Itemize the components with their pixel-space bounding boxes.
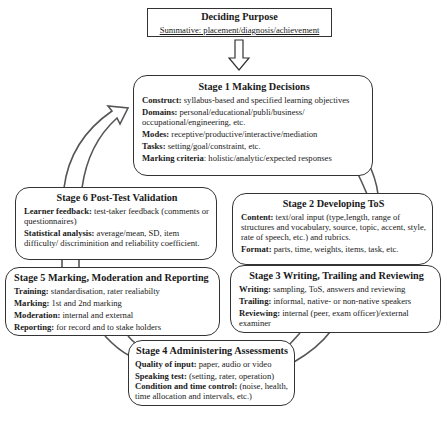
- stage-1-marking-criteria: Marking criteria: holistic/analytic/expe…: [142, 153, 366, 163]
- stage-4-title: Stage 4 Administering Assessments: [135, 345, 289, 357]
- stage-2-content: Content: text/oral input (type,length, r…: [241, 212, 426, 242]
- stage-5-training: Training: standardisation, rater realiab…: [14, 286, 213, 296]
- curved-arrow-icon: [64, 106, 128, 188]
- stage-3-writing: Writing: sampling, ToS, answers and revi…: [239, 284, 434, 294]
- stage-4-speaking-test: Speaking test: (setting, rater, operatio…: [135, 371, 289, 381]
- stage-5-box: Stage 5 Marking, Moderation and Reportin…: [5, 267, 220, 336]
- stage-3-trailing: Trailing: informal, native- or non-nativ…: [239, 296, 434, 306]
- purpose-title: Deciding Purpose: [148, 11, 331, 23]
- stage-4-quality-of-input: Quality of input: paper, audio or video: [135, 359, 289, 369]
- stage-5-marking: Marking: 1st and 2nd marking: [14, 298, 213, 308]
- stage-5-reporting: Reporting: for record and to stake holde…: [14, 322, 213, 332]
- purpose-subtitle: Summative: placement/diagnosis/achieveme…: [148, 25, 331, 36]
- stage-2-title: Stage 2 Developing ToS: [241, 198, 426, 210]
- stage-1-title: Stage 1 Making Decisions: [142, 81, 366, 93]
- stage-1-construct: Construct: syllabus-based and specified …: [142, 95, 366, 105]
- stage-5-title: Stage 5 Marking, Moderation and Reportin…: [14, 272, 213, 284]
- stage-2-box: Stage 2 Developing ToS Content: text/ora…: [232, 193, 433, 265]
- stage-4-box: Stage 4 Administering Assessments Qualit…: [128, 340, 295, 406]
- stage-6-statistical-analysis: Statistical analysis: average/mean, SD, …: [24, 228, 210, 248]
- deciding-purpose-box: Deciding Purpose Summative: placement/di…: [147, 8, 332, 37]
- stage-1-tasks: Tasks: setting/goal/constraint, etc.: [142, 141, 366, 151]
- stage-6-box: Stage 6 Post-Test Validation Learner fee…: [15, 187, 217, 260]
- stage-3-title: Stage 3 Writing, Trailing and Reviewing: [239, 270, 434, 282]
- stage-1-box: Stage 1 Making Decisions Construct: syll…: [133, 75, 373, 176]
- stage-2-format: Format: parts, time, weights, items, tas…: [241, 244, 426, 254]
- stage-3-reviewing: Reviewing: internal (peer, exam officer)…: [239, 308, 434, 328]
- stage-5-moderation: Moderation: internal and external: [14, 310, 213, 320]
- stage-6-title: Stage 6 Post-Test Validation: [24, 192, 210, 204]
- stage-3-box: Stage 3 Writing, Trailing and Reviewing …: [230, 265, 441, 333]
- stage-1-modes: Modes: receptive/productive/interactive/…: [142, 129, 366, 139]
- down-arrow-icon: [229, 40, 249, 70]
- stage-1-domains: Domains: personal/educational/publi/busi…: [142, 107, 366, 127]
- stage-6-learner-feedback: Learner feedback: test-taker feedback (c…: [24, 206, 210, 226]
- stage-4-condition-time-control: Condition and time control: (noise, heal…: [135, 381, 289, 401]
